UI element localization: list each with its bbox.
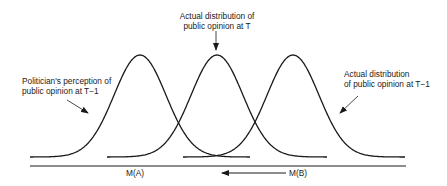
pointer-arrow-actual-t-minus-1 [340, 96, 358, 113]
curve-actual-distribution-t [107, 55, 327, 157]
label-politician-perception: Politician's perception of public opinio… [22, 76, 111, 96]
marker-m-b: M(B) [289, 168, 307, 178]
label-actual-distribution-t-minus-1: Actual distribution of public opinion at… [344, 69, 430, 89]
opinion-shift-diagram: Politician's perception of public opinio… [0, 0, 447, 186]
curve-politician-perception [30, 55, 250, 157]
marker-m-a: M(A) [126, 168, 144, 178]
pointer-arrow-politician [67, 100, 88, 113]
label-actual-distribution-t: Actual distribution of public opinion at… [168, 11, 266, 31]
